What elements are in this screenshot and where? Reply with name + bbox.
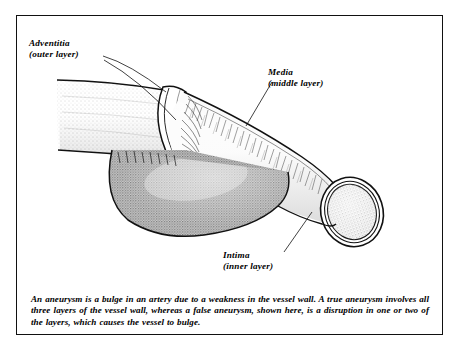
- label-media: Media (middle layer): [268, 67, 324, 89]
- figure-root: Adventitia (outer layer) Media (middle l…: [0, 0, 458, 349]
- label-adventitia-name: Adventitia: [29, 38, 70, 48]
- label-adventitia-qualifier: (outer layer): [29, 49, 79, 60]
- figure-caption: An aneurysm is a bulge in an artery due …: [31, 294, 429, 328]
- label-media-name: Media: [268, 67, 293, 77]
- label-media-qualifier: (middle layer): [268, 78, 324, 89]
- label-intima-qualifier: (inner layer): [223, 261, 273, 272]
- label-intima-name: Intima: [223, 250, 250, 260]
- leader-intima: [284, 212, 312, 252]
- label-adventitia: Adventitia (outer layer): [29, 38, 79, 60]
- label-intima: Intima (inner layer): [223, 250, 273, 272]
- artery-left-segment: [57, 79, 170, 159]
